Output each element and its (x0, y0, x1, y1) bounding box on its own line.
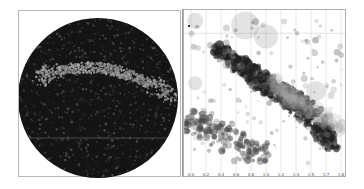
scatter-plot: 0.00.20.40.60.81.01.21.41.51.71.8 (184, 10, 346, 177)
x-tick-label: 0.0 (188, 172, 195, 177)
scatter-panel: 0.00.20.40.60.81.01.21.41.51.71.8 (183, 9, 346, 177)
x-tick-label: 1.7 (323, 172, 330, 177)
x-tick-label: 0.4 (218, 172, 225, 177)
x-tick-label: 1.4 (293, 172, 300, 177)
x-tick-label: 1.2 (278, 172, 285, 177)
x-tick-label: 0.2 (203, 172, 210, 177)
x-tick-label: 1.8 (338, 172, 345, 177)
x-tick-label: 1.0 (263, 172, 270, 177)
x-tick-label: 0.6 (233, 172, 240, 177)
sky-map-panel (18, 10, 181, 177)
x-tick-label: 1.5 (308, 172, 315, 177)
sky-map-plot (19, 11, 182, 178)
x-tick-label: 0.8 (248, 172, 255, 177)
